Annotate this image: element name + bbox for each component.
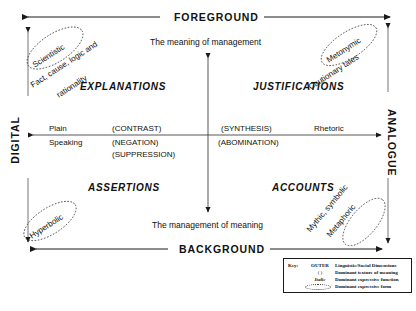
legend-symbol-italic: Italic: [305, 276, 335, 283]
legend-desc-parentheses: Dominant texture of meaning: [335, 269, 398, 276]
ellipse-icon: [305, 284, 331, 290]
axis-plain-label: Plain: [49, 124, 67, 133]
axis-contrast-label: (CONTRAST): [112, 124, 161, 133]
diagram-canvas: FOREGROUND BACKGROUND DIGITAL ANALOGUE T…: [0, 0, 416, 311]
quadrant-assertions: ASSERTIONS: [88, 182, 160, 193]
axis-rhetoric-label: Rhetoric: [314, 124, 344, 133]
legend-symbol-parentheses: ( ): [305, 269, 335, 276]
legend-symbol-ellipse-wrap: [305, 284, 335, 290]
axis-negation-label: (NEGATION): [112, 138, 159, 147]
legend-row: Dominant expressive form: [288, 283, 407, 290]
legend-desc-ellipse: Dominant expressive form: [335, 283, 391, 290]
analogue-label: ANALOGUE: [386, 109, 398, 171]
digital-label: DIGITAL: [9, 112, 21, 168]
axis-speaking-label: Speaking: [49, 138, 82, 147]
caption-meaning-of-management: The meaning of management: [150, 37, 261, 47]
legend-row: Italic Dominant expressive function: [288, 276, 407, 283]
caption-management-of-meaning: The management of meaning: [152, 220, 263, 230]
foreground-label: FOREGROUND: [169, 11, 264, 23]
legend-desc-italic: Dominant expressive function: [335, 276, 399, 283]
legend-row: ( ) Dominant texture of meaning: [288, 269, 407, 276]
legend-key-word: Key:: [288, 262, 305, 269]
legend-box: Key: OUTER Linguistic/Social Dimensions …: [283, 258, 412, 293]
quadrant-accounts: ACCOUNTS: [272, 182, 334, 193]
axis-suppression-label: (SUPPRESSION): [112, 150, 175, 159]
background-label: BACKGROUND: [174, 243, 270, 255]
quadrant-justifications: JUSTIFICATIONS: [253, 81, 344, 92]
legend-symbol-outer: OUTER: [305, 262, 335, 269]
quadrant-explanations: EXPLANATIONS: [80, 81, 166, 92]
axis-synthesis-label: (SYNTHESIS): [221, 124, 272, 133]
axis-abomination-label: (ABOMINATION): [218, 138, 279, 147]
legend-desc-outer: Linguistic/Social Dimensions: [335, 262, 397, 269]
legend-row: Key: OUTER Linguistic/Social Dimensions: [288, 262, 407, 269]
